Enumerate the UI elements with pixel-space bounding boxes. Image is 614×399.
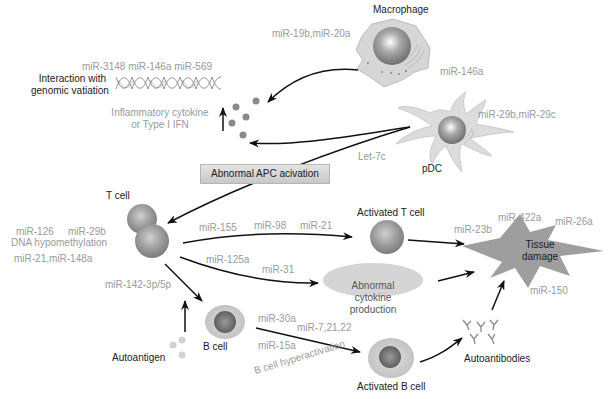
mirna-macrophage-out: miR-146a [440, 66, 483, 78]
macrophage-cell-icon [356, 19, 430, 87]
cytokine-to-tissue-arrow [438, 272, 474, 281]
activated-bcell-to-autoantibodies-arrow [420, 338, 462, 362]
activated-b-cell-icon [368, 338, 414, 378]
autoantigen-label: Autoantigen [112, 352, 165, 364]
genomic-line-2: genomic vatiation [31, 85, 106, 97]
mirna-98: miR-98 [254, 220, 286, 232]
macrophage-to-cytokine-arrow [268, 69, 358, 102]
mirna-155: miR-155 [199, 222, 237, 234]
cytokine-line-1: Inflammatory cytokine [104, 107, 216, 119]
mirna-26a: miR-26a [555, 216, 593, 228]
diagram-canvas: Macrophage miR-19b,miR-20a miR-146a miR-… [0, 0, 614, 399]
mirna-23b: miR-23b [454, 224, 492, 236]
genomic-line-1: Interaction with [31, 73, 106, 85]
tcell-to-activated-tcell-arrow [183, 234, 352, 243]
abnormal-cytokine-label: Abnormal cytokine production [325, 280, 421, 316]
mirna-genomic: miR-3148 miR-146a miR-569 [82, 61, 212, 73]
abnormal-cytokine-line-1: Abnormal [325, 280, 421, 292]
activated-tcell-to-tissue-arrow [408, 240, 464, 244]
mirna-15a: miR-15a [258, 340, 296, 352]
mirna-30a: miR-30a [258, 313, 296, 325]
activated-b-cell-label: Activated B cell [357, 381, 425, 393]
dna-hypomethylation-label: DNA hypomethylation [11, 237, 107, 249]
mirna-macrophage-in: miR-19b,miR-20a [272, 28, 350, 40]
pdc-cell-icon [396, 92, 514, 172]
t-cell-label: T cell [106, 190, 130, 202]
abnormal-cytokine-line-3: production [325, 304, 421, 316]
macrophage-label: Macrophage [373, 4, 429, 16]
autoantigen-dots-icon [170, 337, 186, 359]
b-cell-label: B cell [203, 341, 227, 353]
dna-helix-icon [116, 77, 221, 89]
activated-t-cell-label: Activated T cell [357, 207, 424, 219]
mirna-21: miR-21 [300, 220, 332, 232]
mirna-tcell-126: miR-126 [16, 226, 54, 238]
mirna-142: miR-142-3p/5p [105, 279, 171, 291]
abnormal-cytokine-line-2: cytokine [325, 292, 421, 304]
autoantibodies-to-tissue-arrow [492, 281, 504, 310]
autoantibodies-label: Autoantibodies [464, 353, 530, 365]
genomic-interaction-label: Interaction with genomic vatiation [31, 73, 106, 96]
mirna-pdc: miR-29b,miR-29c [478, 109, 556, 121]
cytokine-dots-icon [229, 98, 260, 139]
pdc-to-cytokine-arrow [250, 127, 410, 144]
mirna-tcell-21-148a: miR-21,miR-148a [14, 253, 92, 265]
tissue-line-1: Tissue [510, 239, 570, 251]
tissue-damage-label: Tissue damage [510, 239, 570, 263]
abnormal-apc-activation-box: Abnormal APC acivation [200, 164, 330, 184]
cytokine-line-2: or Type I IFN [104, 119, 216, 131]
activated-t-cell-icon [370, 220, 404, 254]
mirna-tcell-29b: miR-29b [68, 226, 106, 238]
mirna-7-21-22: miR-7,21,22 [297, 322, 351, 334]
mirna-31: miR-31 [262, 264, 294, 276]
t-cell-icon [127, 204, 169, 258]
pdc-label: pDC [422, 163, 442, 175]
tissue-line-2: damage [510, 251, 570, 263]
diagram-graphics [0, 0, 614, 399]
mirna-let7c: Let-7c [358, 151, 386, 163]
inflammatory-cytokine-label: Inflammatory cytokine or Type I IFN [104, 107, 216, 130]
mirna-422a: miR-422a [498, 212, 541, 224]
b-cell-icon [205, 305, 245, 339]
mirna-125a: miR-125a [206, 254, 249, 266]
mirna-150: miR-150 [530, 285, 568, 297]
autoantibodies-icon [463, 320, 498, 344]
